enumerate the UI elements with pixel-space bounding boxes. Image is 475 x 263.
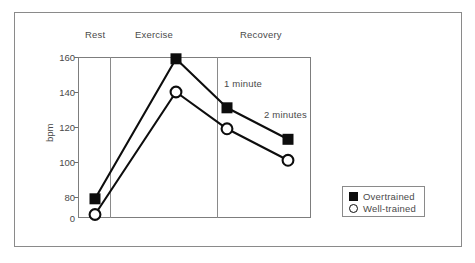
legend-item-well-trained: Well-trained — [349, 203, 416, 214]
marker-well-trained-rest — [90, 209, 101, 220]
open-circle-icon — [349, 204, 358, 213]
marker-well-trained-1min — [222, 123, 233, 134]
legend-label-overtrained: Overtrained — [363, 191, 415, 202]
marker-overtrained-rest — [90, 193, 101, 204]
legend-label-well-trained: Well-trained — [363, 203, 416, 214]
legend: Overtrained Well-trained — [342, 186, 425, 217]
annotation-one-minute: 1 minute — [224, 78, 262, 89]
filled-square-icon — [349, 192, 358, 201]
line-well-trained — [95, 92, 288, 215]
marker-overtrained-exercise — [171, 53, 182, 64]
marker-well-trained-2min — [283, 155, 294, 166]
marker-overtrained-1min — [222, 102, 233, 113]
series-graphics — [0, 0, 475, 263]
marker-well-trained-exercise — [171, 87, 182, 98]
annotation-two-minutes: 2 minutes — [264, 109, 307, 120]
marker-overtrained-2min — [283, 134, 294, 145]
chart-figure: Rest Exercise Recovery bpm 160 140 120 1… — [0, 0, 475, 263]
legend-item-overtrained: Overtrained — [349, 191, 415, 202]
